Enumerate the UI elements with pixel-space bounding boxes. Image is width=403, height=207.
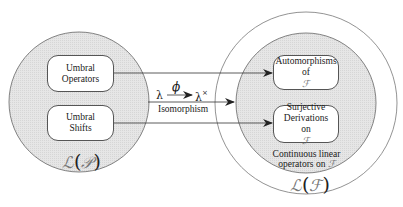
box-line: of ℱ	[275, 67, 336, 89]
left-set-label: ℒ(𝒫)	[62, 150, 101, 172]
automorphisms-box: Automorphisms of ℱ	[273, 55, 339, 90]
box-line: Umbral	[66, 112, 95, 123]
isomorphism-caption: Isomorphism	[158, 104, 208, 114]
script-f-symbol: ℱ	[284, 135, 328, 146]
box-line: Operators	[62, 74, 99, 85]
box-line: Automorphisms	[275, 56, 336, 67]
surjective-derivations-box: Surjective Derivations on ℱ	[273, 105, 339, 143]
continuous-operators-caption: Continuous linear operators on ℱ	[270, 149, 343, 169]
lambda-target: λ×	[195, 89, 208, 104]
times-superscript: ×	[202, 89, 208, 97]
lambda-source: λ	[156, 89, 163, 102]
umbral-shifts-box: Umbral Shifts	[47, 105, 114, 141]
box-line: Shifts	[66, 123, 95, 134]
right-set-label: ℒ(ℱ)	[290, 173, 330, 195]
box-line: on ℱ	[284, 124, 328, 146]
box-line: Umbral	[62, 63, 99, 74]
umbral-operators-box: Umbral Operators	[47, 55, 114, 92]
script-f-symbol: ℱ	[275, 78, 336, 89]
box-line: Derivations	[284, 113, 328, 124]
diagram: Umbral Operators Umbral Shifts Automorph…	[0, 0, 403, 207]
box-line: Surjective	[284, 102, 328, 113]
script-f-symbol: ℱ	[328, 158, 335, 169]
phi-symbol: ϕ	[172, 80, 180, 94]
